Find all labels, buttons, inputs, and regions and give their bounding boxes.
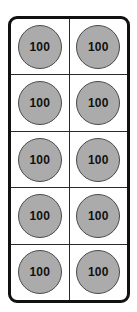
coin-token-label: 100 — [29, 266, 50, 278]
tray-row: 100 100 — [11, 132, 127, 188]
tray-row: 100 100 — [11, 188, 127, 244]
coin-token-label: 100 — [29, 210, 50, 222]
coin-token-label: 100 — [88, 266, 109, 278]
coin-token[interactable]: 100 — [18, 250, 62, 294]
coin-token[interactable]: 100 — [18, 81, 62, 125]
tray-cell[interactable]: 100 — [11, 188, 70, 243]
tray-cell[interactable]: 100 — [11, 132, 70, 187]
coin-token-label: 100 — [29, 154, 50, 166]
coin-token[interactable]: 100 — [76, 25, 120, 69]
tray-row: 100 100 — [11, 75, 127, 131]
tray-cell[interactable]: 100 — [70, 132, 128, 187]
coin-token-label: 100 — [88, 210, 109, 222]
token-tray: 100 100 100 100 100 100 — [8, 16, 130, 303]
tray-cell[interactable]: 100 — [70, 245, 128, 300]
coin-token-label: 100 — [88, 41, 109, 53]
coin-token-label: 100 — [88, 97, 109, 109]
tray-cell[interactable]: 100 — [70, 188, 128, 243]
tray-cell[interactable]: 100 — [11, 19, 70, 74]
coin-token[interactable]: 100 — [76, 138, 120, 182]
tray-cell[interactable]: 100 — [70, 75, 128, 130]
coin-token[interactable]: 100 — [18, 138, 62, 182]
tray-cell[interactable]: 100 — [11, 75, 70, 130]
coin-token[interactable]: 100 — [76, 194, 120, 238]
coin-token-label: 100 — [88, 154, 109, 166]
tray-row: 100 100 — [11, 19, 127, 75]
tray-row: 100 100 — [11, 245, 127, 300]
coin-token-label: 100 — [29, 97, 50, 109]
tray-cell[interactable]: 100 — [11, 245, 70, 300]
coin-token[interactable]: 100 — [18, 25, 62, 69]
coin-token-label: 100 — [29, 41, 50, 53]
coin-token[interactable]: 100 — [18, 194, 62, 238]
tray-cell[interactable]: 100 — [70, 19, 128, 74]
coin-token[interactable]: 100 — [76, 81, 120, 125]
coin-token[interactable]: 100 — [76, 250, 120, 294]
